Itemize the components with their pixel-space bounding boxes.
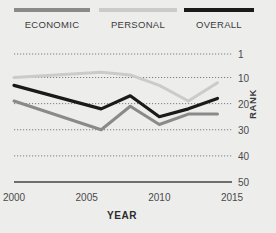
chart-legend: ECONOMIC PERSONAL OVERALL <box>0 8 276 42</box>
legend-label-overall: OVERALL <box>184 19 254 30</box>
x-tick-2000: 2000 <box>3 192 25 203</box>
y-tick-50: 50 <box>238 177 249 188</box>
series-lines <box>14 72 217 129</box>
legend-label-personal: PERSONAL <box>99 19 177 30</box>
legend-swatch-personal <box>99 8 177 12</box>
y-tick-1: 1 <box>238 49 244 60</box>
y-axis-title: RANK <box>247 89 258 119</box>
legend-item-economic[interactable]: ECONOMIC <box>14 8 90 30</box>
y-tick-10: 10 <box>238 72 249 83</box>
y-tick-40: 40 <box>238 150 249 161</box>
legend-swatch-economic <box>14 8 90 12</box>
legend-item-overall[interactable]: OVERALL <box>184 8 254 30</box>
legend-label-economic: ECONOMIC <box>14 19 90 30</box>
x-tick-2010: 2010 <box>148 192 170 203</box>
chart-canvas <box>0 44 276 189</box>
x-tick-2015: 2015 <box>221 192 243 203</box>
plot-area <box>0 44 276 189</box>
x-tick-2005: 2005 <box>76 192 98 203</box>
series-line-personal <box>14 72 217 101</box>
legend-item-personal[interactable]: PERSONAL <box>99 8 177 30</box>
x-axis-title: YEAR <box>107 210 137 221</box>
legend-swatch-overall <box>184 8 254 12</box>
series-line-economic <box>14 101 217 130</box>
y-tick-30: 30 <box>238 124 249 135</box>
rank-line-chart: ECONOMIC PERSONAL OVERALL 11020304050 RA… <box>0 0 276 233</box>
